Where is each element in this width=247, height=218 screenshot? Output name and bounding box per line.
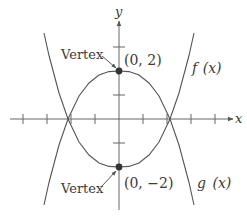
f-label: f (x) — [191, 60, 222, 76]
top-vertex-arrow — [102, 56, 116, 68]
bottom-vertex-coords: (0, −2) — [124, 175, 173, 191]
x-axis-label: x — [235, 111, 243, 126]
diagram-canvas: x y Vertex (0, 2) Vertex (0, −2) f (x) g… — [0, 0, 247, 218]
g-label-arg: (x) — [212, 175, 231, 191]
top-vertex-dot — [116, 68, 123, 75]
bottom-vertex-dot — [116, 164, 123, 171]
y-axis-label: y — [114, 4, 123, 19]
f-label-name: f — [191, 60, 200, 76]
bottom-vertex-arrow — [102, 171, 116, 186]
g-label-name: g — [197, 175, 206, 191]
parabola-diagram: x y Vertex (0, 2) Vertex (0, −2) f (x) g… — [0, 0, 247, 218]
f-label-arg: (x) — [203, 60, 222, 76]
top-vertex-label: Vertex — [60, 47, 104, 62]
g-label: g (x) — [197, 175, 231, 191]
top-vertex-coords: (0, 2) — [124, 52, 162, 68]
bottom-vertex-label: Vertex — [60, 181, 104, 196]
